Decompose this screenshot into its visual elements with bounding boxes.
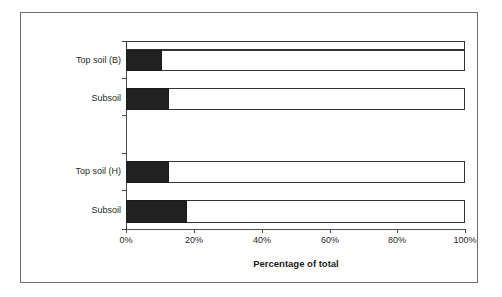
bar-row[interactable] — [126, 161, 465, 183]
bar-segment-dark — [126, 161, 169, 183]
y-axis-label-subsoil-2: Subsoil — [91, 205, 121, 216]
bar-segment-light — [126, 88, 465, 110]
x-axis-tick — [330, 229, 331, 233]
bar-segment-light — [126, 161, 465, 183]
bar-segment-light — [126, 50, 465, 71]
y-axis-tick — [122, 115, 127, 116]
bar-row[interactable] — [126, 50, 465, 71]
bar-row-top-strip — [126, 41, 465, 50]
y-axis-label-subsoil-1: Subsoil — [91, 93, 121, 104]
y-axis-tick — [122, 78, 127, 79]
x-axis-tick-label-0: 0% — [119, 235, 132, 246]
x-axis-line — [126, 229, 466, 230]
y-axis-label-top-soil-h: Top soil (H) — [75, 166, 121, 177]
bar-row[interactable] — [126, 88, 465, 110]
x-axis-tick-label-100: 100% — [453, 235, 476, 246]
bar-segment-dark — [126, 88, 169, 110]
bar-segment-dark — [126, 50, 162, 71]
x-axis-title: Percentage of total — [126, 258, 466, 269]
y-axis-tick — [122, 190, 127, 191]
figure-frame: Top soil (B) Subsoil Top soil (H) Subsoi… — [20, 12, 478, 283]
chart-figure: Top soil (B) Subsoil Top soil (H) Subsoi… — [0, 0, 502, 297]
x-axis-tick — [465, 229, 466, 233]
x-axis-tick-label-60: 60% — [321, 235, 339, 246]
bar-outline — [126, 41, 465, 50]
x-axis-tick — [397, 229, 398, 233]
x-axis-tick-label-40: 40% — [253, 235, 271, 246]
x-axis-tick-label-20: 20% — [185, 235, 203, 246]
x-axis-tick — [126, 229, 127, 233]
x-axis-tick — [262, 229, 263, 233]
y-axis-label-top-soil-b: Top soil (B) — [76, 55, 121, 66]
x-axis-tick-label-80: 80% — [388, 235, 406, 246]
bar-segment-dark — [126, 200, 187, 223]
x-axis-tick — [194, 229, 195, 233]
y-axis-tick — [122, 153, 127, 154]
y-axis-labels: Top soil (B) Subsoil Top soil (H) Subsoi… — [21, 13, 121, 233]
bar-row[interactable] — [126, 200, 465, 223]
